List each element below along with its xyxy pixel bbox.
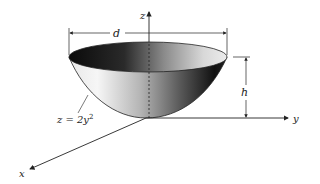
y-axis-label: y [292, 113, 299, 124]
equation-label: z = 2y2 [56, 113, 94, 125]
paraboloid-diagram: z y x d h z = 2y2 [0, 0, 320, 184]
equation-main: z = 2y [56, 114, 89, 125]
x-axis [30, 118, 146, 169]
equation-exponent: 2 [89, 113, 93, 121]
height-label: h [241, 86, 248, 99]
equation-leader [78, 95, 88, 113]
z-axis-label: z [139, 10, 146, 21]
diameter-label: d [113, 27, 120, 40]
bowl-rim-opening [69, 42, 227, 72]
x-axis-label: x [19, 168, 25, 179]
